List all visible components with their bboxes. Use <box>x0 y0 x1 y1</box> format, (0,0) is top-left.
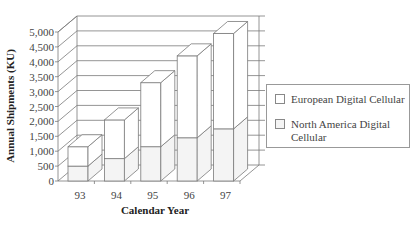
bar-segment <box>68 166 88 181</box>
legend-swatch-european <box>275 94 285 104</box>
bar-segment <box>68 147 88 166</box>
bar-segment <box>104 120 124 159</box>
y-tick-label: 5,000 <box>29 26 54 38</box>
legend: European Digital Cellular North America … <box>266 84 410 148</box>
x-tick-label: 95 <box>147 189 159 201</box>
y-tick-label: 500 <box>38 160 55 172</box>
legend-swatch-north-america <box>275 119 285 129</box>
y-tick-label: 4,500 <box>29 41 54 53</box>
bar-segment <box>104 159 124 181</box>
y-tick-label: 2,500 <box>29 101 54 113</box>
x-tick-label: 97 <box>220 189 232 201</box>
x-axis-ticks: 9394959697 <box>75 181 241 201</box>
legend-item-european: European Digital Cellular <box>275 93 405 106</box>
y-axis-ticks: 05001,0001,5002,0002,5003,0003,5004,0004… <box>29 26 58 187</box>
legend-label-north-america: North America DigitalCellular <box>291 118 390 144</box>
y-tick-label: 4,000 <box>29 56 54 68</box>
bar-96 <box>177 44 211 181</box>
bar-segment <box>141 147 161 181</box>
legend-item-north-america: North America DigitalCellular <box>275 118 390 144</box>
bar-segment <box>177 138 197 181</box>
y-tick-label: 1,500 <box>29 130 54 142</box>
x-tick-label: 94 <box>111 189 123 201</box>
y-tick-label: 3,000 <box>29 86 54 98</box>
bar-segment <box>214 33 234 128</box>
x-tick-label: 93 <box>75 189 87 201</box>
y-axis-title: Annual Shipments (KU) <box>4 49 17 163</box>
x-axis-title: Calendar Year <box>121 204 189 216</box>
y-tick-label: 1,000 <box>29 145 54 157</box>
x-tick-label: 96 <box>184 189 196 201</box>
y-tick-label: 2,000 <box>29 115 54 127</box>
bar-97 <box>214 21 248 181</box>
bar-94 <box>104 108 138 181</box>
y-tick-label: 3,500 <box>29 71 54 83</box>
y-tick-label: 0 <box>49 175 55 187</box>
bar-segment <box>214 129 234 181</box>
bar-segment <box>177 56 197 138</box>
bar-93 <box>68 135 102 181</box>
legend-label-european: European Digital Cellular <box>291 93 405 106</box>
bar-segment <box>141 83 161 147</box>
bar-95 <box>141 71 175 181</box>
